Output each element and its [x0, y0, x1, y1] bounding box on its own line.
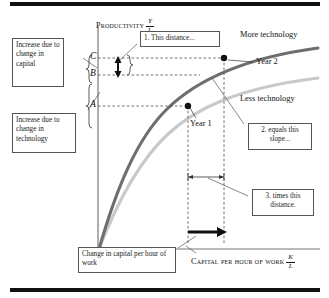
- x-axis-ratio-denominator: L: [286, 263, 295, 271]
- cb-gap-arrow-head-down: [115, 71, 122, 78]
- x-axis-title: Capital per hour of workKL: [191, 254, 295, 270]
- y-mark-B: B: [90, 68, 96, 78]
- leader-year2: [228, 60, 253, 62]
- less-technology-curve: [99, 78, 318, 249]
- curve-label-more-technology: More technology: [240, 30, 297, 39]
- point-label-year2: Year 2: [256, 57, 278, 66]
- callout-change-capital: Change in capital per hour of work: [78, 247, 176, 273]
- leader-change-capital: [178, 236, 196, 248]
- y-mark-A: A: [90, 99, 96, 109]
- y-axis-title-text: Productivity: [96, 21, 144, 30]
- leader-step-3: [208, 178, 248, 196]
- callout-step-1: 1. This distance...: [140, 31, 220, 47]
- measure-arrow-right: [219, 175, 224, 179]
- callout-step-3: 3. times this distance.: [252, 189, 314, 216]
- point-year2-marker: [221, 55, 227, 61]
- y-mark-C: C: [90, 51, 96, 61]
- curve-label-less-technology: Less technology: [240, 94, 295, 103]
- x-axis-title-text: Capital per hour of work: [191, 257, 284, 266]
- capital-change-arrow-head: [217, 227, 227, 237]
- point-label-year1: Year 1: [190, 119, 212, 128]
- callout-increase-technology: Increase due to change in technology: [12, 113, 76, 153]
- x-axis-ratio: KL: [286, 254, 295, 270]
- callout-step-2: 2. equals this slope...: [248, 123, 312, 150]
- measure-arrow-left: [188, 175, 193, 179]
- figure-canvas: ProductivityYL Capital per hour of workK…: [0, 0, 329, 298]
- callout-increase-capital: Increase due to change in capital: [12, 38, 64, 87]
